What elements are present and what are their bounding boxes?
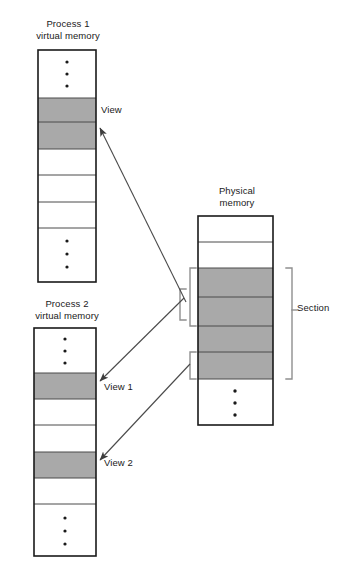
- process2-memory-column: [34, 328, 96, 556]
- pm-block-section-4: [198, 352, 273, 379]
- arrow-view2-process2: [100, 364, 190, 460]
- p1-block-view-a: [38, 98, 96, 122]
- p1-block-view-b: [38, 122, 96, 149]
- p2-block-free-3: [34, 478, 96, 504]
- physical-memory-column: [198, 216, 273, 425]
- p1-block-free-2: [38, 175, 96, 202]
- label-view: View: [101, 104, 122, 115]
- memory-mapping-diagram: [0, 0, 344, 577]
- p2-block-view1: [34, 373, 96, 399]
- pm-block-free-2: [198, 242, 273, 268]
- pm-block-free-top: [198, 216, 273, 242]
- p2-block-view2: [34, 452, 96, 478]
- process1-caption: Process 1 virtual memory: [18, 18, 118, 41]
- p1-block-free-3: [38, 202, 96, 228]
- view1-source-bracket: [190, 268, 196, 326]
- label-view-1: View 1: [104, 381, 133, 392]
- p2-block-free-1: [34, 399, 96, 425]
- pm-block-section-1: [198, 268, 273, 297]
- view-merge-bracket: [180, 289, 186, 320]
- view2-source-bracket: [190, 352, 196, 379]
- process1-memory-column: [38, 50, 96, 282]
- label-section: Section: [297, 302, 329, 313]
- p2-block-free-2: [34, 425, 96, 452]
- p1-block-free-1: [38, 149, 96, 175]
- arrow-view-process1: [100, 128, 186, 302]
- process2-caption: Process 2 virtual memory: [16, 298, 118, 321]
- section-bracket: [286, 268, 292, 379]
- pm-block-section-2: [198, 297, 273, 326]
- physical-memory-caption: Physical memory: [192, 185, 282, 208]
- label-view-2: View 2: [104, 457, 133, 468]
- pm-block-section-3: [198, 326, 273, 352]
- diagram-canvas: Process 1 virtual memory Process 2 virtu…: [0, 0, 344, 577]
